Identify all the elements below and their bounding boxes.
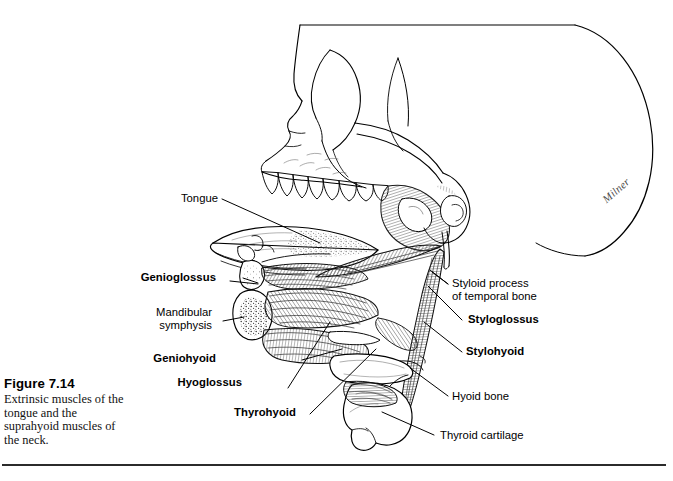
thyrohyoid-muscle [344,381,398,407]
label-styloglossus: Styloglossus [468,313,539,326]
hyoglossus-muscle [265,289,378,328]
label-thyrohyoid: Thyrohyoid [150,406,296,419]
label-geniohyoid: Geniohyoid [80,352,216,365]
label-stylohyoid: Stylohyoid [466,345,524,358]
label-thyroid-cartilage: Thyroid cartilage [440,429,524,442]
figure-caption: Figure 7.14 Extrinsic muscles of the ton… [4,376,130,447]
facial-profile [261,25,443,183]
cranial-vault-outline [300,25,653,256]
maxilla [262,141,366,188]
mandibular-symphysis [233,235,274,339]
page-divider-rule [2,464,666,466]
upper-teeth [262,172,388,201]
figure-number: Figure 7.14 [4,376,130,392]
infratemporal-region [381,185,450,250]
intermediate-tendon [328,331,380,344]
label-genioglossus: Genioglossus [58,271,216,284]
label-styloid-process: Styloid process of temporal bone [452,277,537,302]
figure-caption-text: Extrinsic muscles of the tongue and the … [4,392,123,447]
label-tongue: Tongue [118,192,218,205]
label-mandibular-symphysis: Mandibular symphysis [60,306,212,331]
maxilla-texture [284,153,346,174]
label-hyoid-bone: Hyoid bone [452,390,509,403]
figure-page: Tongue Genioglossus Mandibular symphysis… [0,0,673,481]
suprahyoid-sliver [376,318,418,350]
